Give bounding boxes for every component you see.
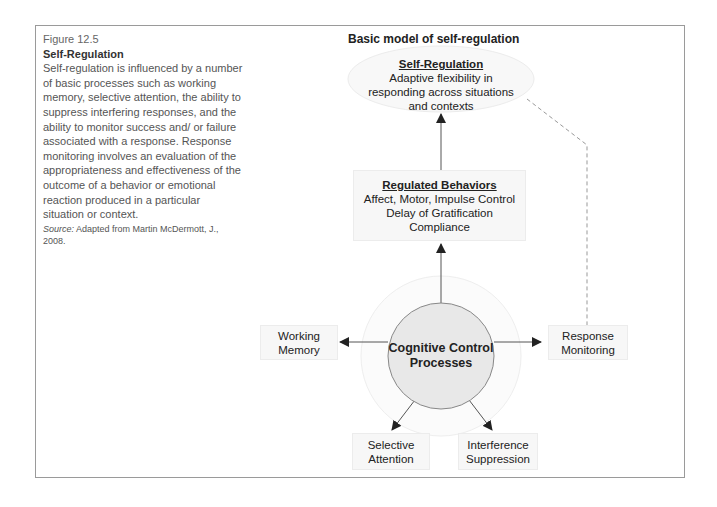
regulated-behaviors-line3: Compliance — [409, 220, 470, 234]
working-memory-line2: Memory — [278, 343, 320, 357]
response-monitoring-line1: Response — [562, 329, 614, 343]
self-regulation-heading: Self-Regulation — [346, 57, 536, 71]
regulated-behaviors-line1: Affect, Motor, Impulse Control — [364, 192, 515, 206]
self-regulation-line2: responding across situations — [346, 85, 536, 99]
self-regulation-line3: and contexts — [346, 99, 536, 113]
working-memory-line1: Working — [278, 329, 320, 343]
core-line1: Cognitive Control — [389, 341, 494, 356]
regulated-behaviors-line2: Delay of Gratification — [386, 206, 493, 220]
interference-suppression-line2: Suppression — [466, 452, 530, 466]
interference-suppression-line1: Interference — [467, 438, 528, 452]
selective-attention-node: Selective Attention — [352, 433, 430, 470]
regulated-behaviors-heading: Regulated Behaviors — [382, 178, 496, 192]
interference-suppression-node: Interference Suppression — [458, 433, 538, 470]
diagram-title: Basic model of self-regulation — [348, 32, 519, 46]
working-memory-node: Working Memory — [260, 325, 338, 360]
response-monitoring-line2: Monitoring — [561, 343, 615, 357]
selective-attention-line1: Selective — [368, 438, 415, 452]
selective-attention-line2: Attention — [368, 452, 413, 466]
self-regulation-node: Self-Regulation Adaptive flexibility in … — [346, 57, 536, 113]
regulated-behaviors-node: Regulated Behaviors Affect, Motor, Impul… — [353, 170, 526, 241]
response-monitoring-node: Response Monitoring — [548, 325, 628, 360]
dashed-feedback-line — [527, 99, 587, 326]
cognitive-control-label: Cognitive Control Processes — [388, 303, 494, 409]
core-line2: Processes — [389, 356, 494, 371]
self-regulation-line1: Adaptive flexibility in — [346, 71, 536, 85]
